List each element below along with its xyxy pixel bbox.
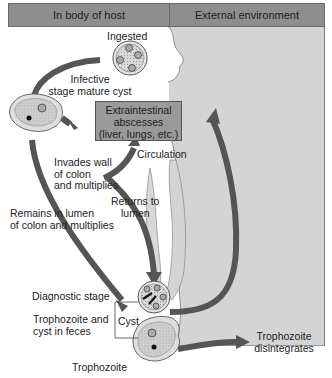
arrowhead-to-ingested xyxy=(206,108,220,124)
trophozoite-host xyxy=(10,94,63,131)
arrowhead-disintegrates xyxy=(236,335,250,349)
abscess-label-line1: Extraintestinal xyxy=(96,104,181,116)
label-remains-in-lumen: Remains in lumen of colon and multiplies xyxy=(10,208,114,231)
arrow-trophozoite-disintegrates xyxy=(178,342,236,349)
label-returns-line1: Returns to xyxy=(111,196,159,208)
label-disintegrates-line2: disintegrates xyxy=(252,343,316,355)
label-trophozoite-disintegrates: Trophozoite disintegrates xyxy=(252,331,316,354)
abscess-label-line3: (liver, lungs, etc.) xyxy=(96,128,181,140)
label-feces-line2: cyst in feces xyxy=(33,326,109,338)
label-invades-wall: Invades wall of colon and multiplies xyxy=(54,157,118,192)
label-invades-line3: and multiplies xyxy=(54,180,118,192)
abscess-label-line2: abscesses xyxy=(96,116,181,128)
extraintestinal-abscesses-box: Extraintestinal abscesses (liver, lungs,… xyxy=(95,101,182,141)
label-trophozoite: Trophozoite xyxy=(72,362,127,374)
label-returns-line2: lumen xyxy=(111,208,159,220)
label-infective-stage: Infective stage mature cyst xyxy=(43,74,137,97)
label-returns-to-lumen: Returns to lumen xyxy=(111,196,159,219)
label-trophozoite-and-cyst-in-feces: Trophozoite and cyst in feces xyxy=(33,314,109,337)
feces-trophozoite xyxy=(133,317,180,361)
label-ingested: Ingested xyxy=(107,31,147,43)
label-diagnostic-stage: Diagnostic stage xyxy=(32,291,110,303)
label-remains-line2: of colon and multiplies xyxy=(10,220,114,232)
label-infective-line1: Infective xyxy=(43,74,137,86)
label-infective-line2: stage mature cyst xyxy=(43,86,137,98)
ingested-cyst xyxy=(113,41,147,75)
label-cyst: Cyst xyxy=(118,316,139,328)
label-circulation: Circulation xyxy=(137,149,187,161)
label-disintegrates-line1: Trophozoite xyxy=(252,331,316,343)
label-invades-line1: Invades wall xyxy=(54,157,118,169)
label-feces-line1: Trophozoite and xyxy=(33,314,109,326)
label-remains-line1: Remains in lumen xyxy=(10,208,114,220)
feces-cyst xyxy=(138,281,170,313)
